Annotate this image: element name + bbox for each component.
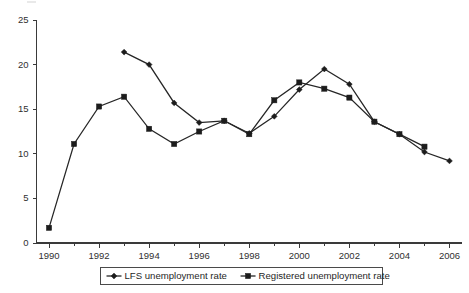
x-tick-label: 1994 bbox=[139, 250, 160, 261]
artifact-mark bbox=[27, 1, 36, 3]
marker-square bbox=[397, 132, 402, 137]
legend-item-2[interactable]: Registered unemployment rate bbox=[241, 270, 390, 281]
x-tick-label: 1996 bbox=[189, 250, 210, 261]
legend-label: LFS unemployment rate bbox=[125, 270, 227, 281]
marker-square bbox=[222, 118, 227, 123]
y-tick-label: 5 bbox=[23, 192, 28, 203]
series-layer bbox=[46, 49, 452, 230]
marker-square bbox=[71, 141, 76, 146]
x-tick-label: 1990 bbox=[38, 250, 59, 261]
marker-square bbox=[96, 104, 101, 109]
y-tick-label: 25 bbox=[18, 14, 29, 25]
x-axis: 199019921994199619982000200220042006 bbox=[37, 243, 463, 261]
line-chart: 0510152025 19901992199419961998200020022… bbox=[0, 0, 469, 293]
marker-square bbox=[372, 119, 377, 124]
marker-square bbox=[46, 225, 51, 230]
marker-square bbox=[172, 141, 177, 146]
marker-diamond bbox=[447, 158, 453, 164]
x-tick-label: 1992 bbox=[89, 250, 110, 261]
x-tick-label: 1998 bbox=[239, 250, 260, 261]
legend-item-1[interactable]: LFS unemployment rate bbox=[107, 270, 227, 281]
marker-square bbox=[422, 144, 427, 149]
marker-square bbox=[272, 98, 277, 103]
y-tick-label: 0 bbox=[23, 237, 28, 248]
marker-square bbox=[147, 126, 152, 131]
y-tick-label: 20 bbox=[18, 59, 29, 70]
marker-square bbox=[122, 94, 127, 99]
x-tick-label: 2002 bbox=[339, 250, 360, 261]
y-tick-label: 15 bbox=[18, 103, 29, 114]
marker-square bbox=[322, 86, 327, 91]
series-2 bbox=[46, 80, 427, 231]
marker-square bbox=[197, 129, 202, 134]
marker-square bbox=[297, 80, 302, 85]
scan-artifact bbox=[27, 1, 36, 3]
x-tick-label: 2000 bbox=[289, 250, 310, 261]
marker-square bbox=[247, 132, 252, 137]
marker-square bbox=[347, 95, 352, 100]
chart-canvas: 0510152025 19901992199419961998200020022… bbox=[0, 0, 469, 293]
series-line bbox=[49, 82, 424, 227]
x-tick-label: 2006 bbox=[439, 250, 460, 261]
x-tick-label: 2004 bbox=[389, 250, 410, 261]
y-tick-label: 10 bbox=[18, 148, 29, 159]
chart-legend: LFS unemployment rateRegistered unemploy… bbox=[101, 268, 390, 285]
marker-square bbox=[245, 273, 250, 278]
marker-diamond bbox=[121, 49, 127, 55]
y-axis: 0510152025 bbox=[18, 14, 37, 248]
series-1 bbox=[121, 49, 452, 164]
legend-label: Registered unemployment rate bbox=[259, 270, 390, 281]
